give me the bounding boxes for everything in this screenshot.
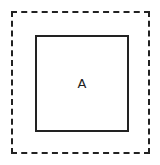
box-label: A — [78, 76, 87, 91]
inner-box-a: A — [35, 35, 129, 132]
